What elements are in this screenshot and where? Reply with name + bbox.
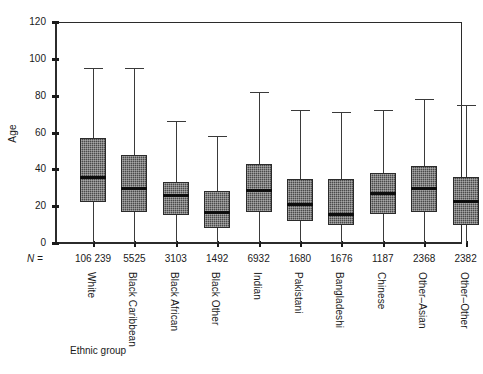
whisker-lower <box>259 212 260 243</box>
whisker-upper <box>134 68 135 155</box>
median-line <box>328 213 354 216</box>
median-line <box>370 192 396 195</box>
category-label-2: Black African <box>169 272 180 331</box>
whisker-upper <box>217 136 218 191</box>
y-tick-label-80: 80 <box>16 91 46 101</box>
n-value-9: 2382 <box>438 253 483 264</box>
whisker-upper <box>176 121 177 182</box>
y-tick-0 <box>52 242 59 245</box>
y-tick-60 <box>52 132 59 135</box>
category-label-8: Other–Asian <box>417 272 428 329</box>
category-label-1: Black Caribbean <box>127 272 138 347</box>
whisker-upper <box>93 68 94 138</box>
whisker-lower <box>176 215 177 243</box>
y-tick-label-100: 100 <box>16 54 46 64</box>
category-label-6: Bangladeshi <box>334 272 345 328</box>
category-label-3: Black Other <box>210 272 221 325</box>
whisker-upper <box>341 112 342 178</box>
y-tick-120 <box>52 21 59 24</box>
whisker-cap-upper <box>291 110 310 111</box>
whisker-cap-upper <box>208 136 227 137</box>
whisker-lower <box>424 212 425 243</box>
y-tick-80 <box>52 95 59 98</box>
y-tick-20 <box>52 205 59 208</box>
whisker-upper <box>424 99 425 165</box>
y-tick-label-20: 20 <box>16 201 46 211</box>
y-axis-title: Age <box>7 114 18 154</box>
n-row-label: N = <box>27 253 43 264</box>
whisker-lower <box>466 225 467 243</box>
whisker-lower <box>300 221 301 243</box>
box-bangladeshi <box>328 179 354 225</box>
whisker-lower <box>93 202 94 243</box>
whisker-lower <box>217 228 218 243</box>
whisker-cap-upper <box>84 68 103 69</box>
median-line <box>287 203 313 206</box>
whisker-cap-upper <box>167 121 186 122</box>
whisker-upper <box>259 92 260 164</box>
category-label-9: Other–Other <box>459 272 470 329</box>
whisker-cap-upper <box>374 110 393 111</box>
whisker-cap-upper <box>125 68 144 69</box>
y-tick-40 <box>52 168 59 171</box>
category-label-0: White <box>86 272 97 298</box>
whisker-upper <box>466 105 467 177</box>
y-tick-label-40: 40 <box>16 164 46 174</box>
whisker-cap-upper <box>250 92 269 93</box>
whisker-upper <box>383 110 384 173</box>
whisker-cap-upper <box>457 105 476 106</box>
box-pakistani <box>287 179 313 221</box>
y-tick-100 <box>52 58 59 61</box>
category-label-4: Indian <box>252 272 263 300</box>
median-line <box>453 200 479 203</box>
whisker-lower <box>134 212 135 243</box>
whisker-lower <box>341 225 342 243</box>
y-tick-label-120: 120 <box>16 17 46 27</box>
box-black-caribbean <box>121 155 147 212</box>
whisker-cap-upper <box>415 99 434 100</box>
median-line <box>204 211 230 214</box>
category-label-5: Pakistani <box>293 272 304 313</box>
y-tick-label-60: 60 <box>16 128 46 138</box>
box-white <box>80 138 106 202</box>
median-line <box>121 187 147 190</box>
median-line <box>163 194 189 197</box>
x-axis-title: Ethnic group <box>70 345 126 356</box>
median-line <box>246 189 272 192</box>
category-label-7: Chinese <box>376 272 387 309</box>
y-tick-label-0: 0 <box>16 238 46 248</box>
box-black-african <box>163 182 189 215</box>
median-line <box>80 176 106 179</box>
whisker-lower <box>383 214 384 243</box>
median-line <box>411 187 437 190</box>
whisker-cap-upper <box>332 112 351 113</box>
whisker-upper <box>300 110 301 178</box>
